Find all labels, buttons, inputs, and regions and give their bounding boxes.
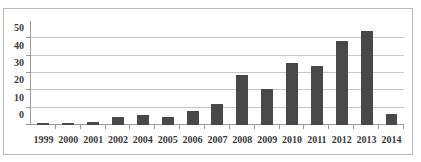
value-axis-label: 10 [14,93,24,103]
bar-slot [31,21,56,125]
category-tick [230,125,255,129]
category-tick [304,125,329,129]
category-tick [255,125,280,129]
category-tick [280,125,305,129]
bar[interactable] [311,66,323,125]
value-axis-label: 30 [14,58,24,68]
plot-area: 01020304050 [30,21,404,125]
bar-slot [155,21,180,125]
category-tick [31,125,56,129]
category-label: 2007 [205,135,230,145]
bar[interactable] [286,63,298,125]
bar[interactable] [112,117,124,125]
bar-slot [205,21,230,125]
category-label: 2006 [180,135,205,145]
category-tick [329,125,354,129]
bar[interactable] [336,41,348,125]
bar-slot [56,21,81,125]
category-tick [106,125,131,129]
bar-slot [354,21,379,125]
category-label: 2011 [304,135,329,145]
bar-slot [255,21,280,125]
category-tick-marks [31,125,404,129]
category-tick [379,125,404,129]
bar[interactable] [386,114,398,125]
value-axis-label: 0 [19,110,24,120]
bar-slot [180,21,205,125]
category-label: 2002 [106,135,131,145]
category-tick [205,125,230,129]
bar-slot [304,21,329,125]
bar[interactable] [137,115,149,125]
bar[interactable] [162,117,174,125]
bar-slot [379,21,404,125]
category-label: 2012 [329,135,354,145]
value-axis-tick [26,37,30,38]
category-tick [155,125,180,129]
category-axis-labels: 1999200020012002200420052006200720082009… [31,135,404,145]
bar-slot [329,21,354,125]
bar-series [31,21,404,125]
category-label: 2014 [379,135,404,145]
value-axis-label: 20 [14,75,24,85]
category-label: 2010 [280,135,305,145]
bar[interactable] [187,111,199,125]
value-axis-label: 50 [14,23,24,33]
value-axis-tick [26,124,30,125]
category-label: 2009 [255,135,280,145]
bar-slot [130,21,155,125]
category-tick [56,125,81,129]
category-label: 2001 [81,135,106,145]
category-label: 2004 [130,135,155,145]
category-label: 1999 [31,135,56,145]
bar[interactable] [261,89,273,125]
category-tick [81,125,106,129]
bar[interactable] [236,75,248,125]
bar-slot [106,21,131,125]
category-label: 2005 [155,135,180,145]
bar[interactable] [361,31,373,125]
category-label: 2000 [56,135,81,145]
value-axis-label: 40 [14,41,24,51]
bar[interactable] [211,104,223,125]
bar-slot [81,21,106,125]
bar-slot [230,21,255,125]
category-tick [180,125,205,129]
value-axis-tick [26,55,30,56]
category-label: 2008 [230,135,255,145]
value-axis-tick [26,89,30,90]
category-tick [130,125,155,129]
category-tick [354,125,379,129]
bar-slot [280,21,305,125]
category-label: 2013 [354,135,379,145]
value-axis-tick [26,72,30,73]
value-axis-tick [26,107,30,108]
chart-frame: 01020304050 1999200020012002200420052006… [3,8,413,155]
